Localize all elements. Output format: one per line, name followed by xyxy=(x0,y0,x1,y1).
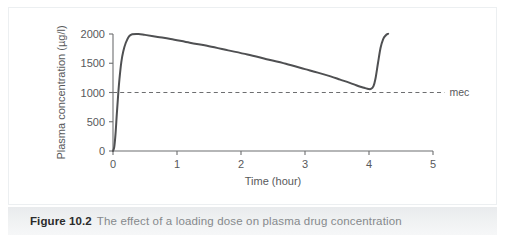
plot-area: 0500100015002000 012345 mec Time (hour)P… xyxy=(9,8,498,206)
x-axis-tick-label: 0 xyxy=(110,158,116,170)
x-axis-tick-label: 1 xyxy=(174,158,180,170)
y-axis-tick-label: 2000 xyxy=(81,28,105,40)
x-axis-title: Time (hour) xyxy=(245,175,301,187)
y-axis-group: 0500100015002000 xyxy=(81,28,113,157)
y-axis-title: Plasma concentration (µg/l) xyxy=(55,25,67,159)
figure-caption-bar: Figure 10.2 The effect of a loading dose… xyxy=(8,207,497,235)
y-axis-tick-label: 1000 xyxy=(81,87,105,99)
figure-number: Figure 10.2 xyxy=(30,215,92,227)
figure-caption-title: The effect of a loading dose on plasma d… xyxy=(97,215,402,227)
figure-frame: 0500100015002000 012345 mec Time (hour)P… xyxy=(8,7,497,205)
x-axis-tick-label: 3 xyxy=(302,158,308,170)
x-axis-group: 012345 xyxy=(110,151,436,170)
y-axis-tick-label: 500 xyxy=(87,116,105,128)
mec-threshold-label: mec xyxy=(450,86,470,98)
plot-svg: 0500100015002000 012345 mec Time (hour)P… xyxy=(9,8,498,206)
y-axis-tick-label: 0 xyxy=(99,145,105,157)
annotation-group: mec xyxy=(113,86,469,98)
x-axis-tick-label: 4 xyxy=(366,158,372,170)
figure-caption: Figure 10.2 The effect of a loading dose… xyxy=(30,207,402,235)
y-axis-tick-label: 1500 xyxy=(81,57,105,69)
x-axis-tick-label: 5 xyxy=(430,158,436,170)
figure-container: 0500100015002000 012345 mec Time (hour)P… xyxy=(0,0,507,242)
x-axis-tick-label: 2 xyxy=(238,158,244,170)
